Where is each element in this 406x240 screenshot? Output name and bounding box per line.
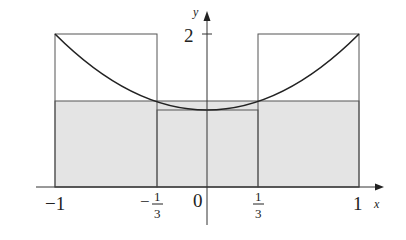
y-axis-label: y [192,5,199,19]
y-axis-arrow-icon [204,11,211,21]
x-tick-label-neg-third-num: 1 [154,189,161,204]
x-tick-label-third-den: 3 [255,206,262,221]
x-tick-label-neg-third-sign: − [140,192,150,211]
x-tick-label-0: 0 [193,190,203,211]
x-tick-label-1: 1 [353,193,363,214]
x-axis-label: x [373,197,380,211]
x-tick-label-neg-third-den: 3 [154,206,161,221]
x-tick-label-third-num: 1 [255,189,262,204]
x-axis-arrow-icon [375,184,384,191]
x-tick-label-neg1: −1 [45,193,65,214]
y-tick-label-2: 2 [184,25,194,46]
diagram-canvas: y 2 −1 − 1 3 0 1 3 1 x [0,0,406,240]
